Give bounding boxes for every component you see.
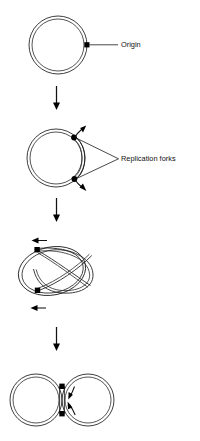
stage4-fork-marker-bottom [59,411,64,416]
stage4-left-circle-inner [13,377,59,423]
stage-1-unreplicated-circle [29,16,90,74]
stage3-fork-bottom-direction-arrow [31,305,47,311]
stage4-fork-top-direction-arrow [68,387,74,400]
transition-arrow-head-3 [53,344,60,352]
stage3-fork-marker-bottom [35,288,40,293]
outer-strand-circle [29,16,87,74]
replication-forks-label: Replication forks [121,154,176,163]
stage3-crossbar-strand-inner [38,253,88,287]
stage4-right-circle-outer [62,374,114,426]
transition-arrow-stage2-stage3 [53,198,60,222]
origin-marker-dot [84,42,89,47]
transition-arrow-stage1-stage2 [53,86,60,110]
stage4-fork-marker-top [59,384,64,389]
transition-arrow-stage3-stage4 [53,327,60,351]
transition-arrow-head [53,103,60,111]
origin-label: Origin [121,40,141,49]
stage2-bubble-outer-arc [74,137,85,180]
stage3-bottom-arrow-head [31,305,38,311]
stage3-crossbar-strand-outer [37,250,90,285]
stage4-left-circle-outer [10,374,62,426]
replication-forks-leader-line-top [77,138,119,159]
diagram-canvas: Origin [0,0,200,441]
stage4-right-circle-inner [65,377,111,423]
stage3-fork-marker-top [34,247,39,252]
stage2-fork-bottom-direction-arrow [75,179,87,191]
replication-forks-callout: Replication forks [77,138,176,178]
transition-arrow-head-2 [53,215,60,223]
inner-strand-circle [32,19,84,71]
stage3-fork-top-direction-arrow [32,238,48,244]
replication-diagram-figure: Origin [0,0,200,441]
stage2-bottom-arrow-head [80,184,87,191]
origin-callout: Origin [90,40,141,49]
stage2-top-arrow-head [80,125,86,132]
stage-3-theta-intermediate [14,238,93,311]
stage2-fork-top-direction-arrow [75,125,87,137]
stage3-top-arrow-head [32,238,39,244]
stage-4-daughter-circles [10,374,114,426]
stage-2-replication-bubble [27,125,86,190]
